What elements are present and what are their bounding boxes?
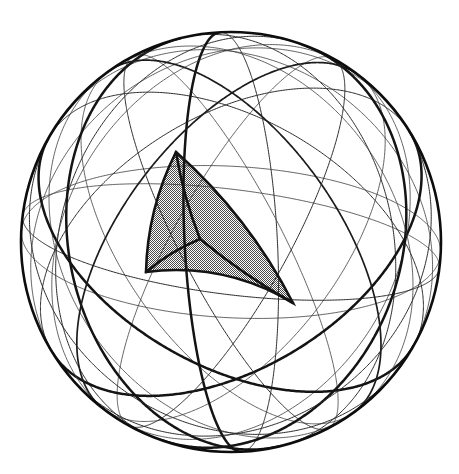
figure-root bbox=[0, 0, 459, 474]
sphere-diagram bbox=[0, 0, 459, 474]
